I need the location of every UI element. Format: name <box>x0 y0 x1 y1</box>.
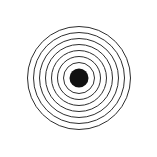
center-dot <box>70 69 89 88</box>
figure-canvas <box>0 0 157 157</box>
concentric-circles-figure <box>0 0 157 157</box>
